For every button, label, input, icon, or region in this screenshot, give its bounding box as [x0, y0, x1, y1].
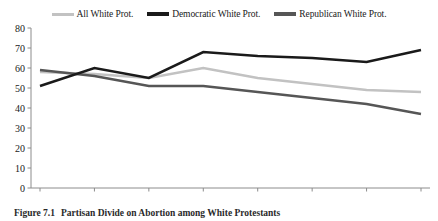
y-axis-tick-label: 60: [15, 63, 25, 74]
y-axis-tick-label: 20: [15, 143, 25, 154]
x-axis-tick-label: 1996: [248, 193, 268, 194]
x-axis: 19801984198819921996200020042008: [30, 188, 431, 194]
y-axis-tick-label: 40: [15, 103, 25, 114]
y-axis-tick-label: 70: [15, 43, 25, 54]
legend-label-democratic-white-prot: Democratic White Prot.: [172, 9, 260, 20]
caption-text: Partisan Divide on Abortion among White …: [61, 208, 280, 218]
legend-item-all-white-prot: All White Prot.: [52, 9, 134, 20]
y-axis-tick-label: 30: [15, 123, 25, 134]
legend-swatch-republican-white-prot: [274, 12, 296, 16]
figure-container: All White Prot. Democratic White Prot. R…: [0, 0, 438, 221]
chart-legend: All White Prot. Democratic White Prot. R…: [0, 6, 438, 22]
legend-swatch-democratic-white-prot: [147, 12, 169, 16]
y-axis-tick-label: 0: [20, 183, 25, 194]
y-axis-tick-label: 80: [15, 23, 25, 34]
series-line-democratic-white-prot: [40, 50, 421, 86]
legend-item-democratic-white-prot: Democratic White Prot.: [147, 9, 260, 20]
caption-number: Figure 7.1: [14, 208, 55, 218]
data-series-group: [40, 50, 421, 114]
plot-area: 01020304050607080 1980198419881992199620…: [0, 22, 438, 194]
legend-swatch-all-white-prot: [52, 13, 74, 16]
legend-label-all-white-prot: All White Prot.: [77, 9, 134, 20]
x-axis-tick-label: 1988: [139, 193, 159, 194]
figure-caption: Figure 7.1Partisan Divide on Abortion am…: [14, 207, 434, 219]
legend-label-republican-white-prot: Republican White Prot.: [299, 9, 386, 20]
x-axis-tick-label: 1992: [193, 193, 213, 194]
series-line-republican-white-prot: [40, 70, 421, 114]
x-axis-tick-label: 1980: [30, 193, 50, 194]
line-chart-svg: 01020304050607080 1980198419881992199620…: [0, 22, 438, 194]
y-axis-tick-label: 50: [15, 83, 25, 94]
y-axis-tick-label: 10: [15, 163, 25, 174]
legend-item-republican-white-prot: Republican White Prot.: [274, 9, 386, 20]
x-axis-tick-label: 2000: [302, 193, 322, 194]
x-axis-tick-label: 1984: [84, 193, 104, 194]
y-axis: 01020304050607080: [15, 23, 31, 194]
x-axis-tick-label: 2008: [411, 193, 431, 194]
x-axis-tick-label: 2004: [357, 193, 377, 194]
